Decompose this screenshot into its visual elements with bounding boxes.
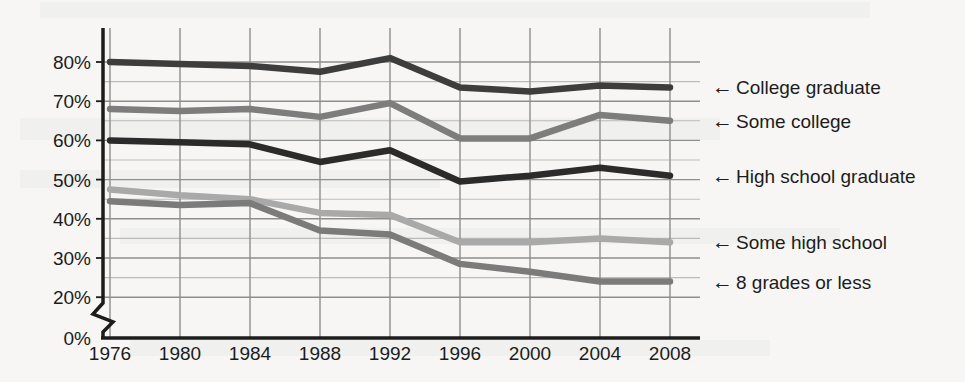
y-tick-label-30: 30% <box>53 248 91 269</box>
y-tick-label-20: 20% <box>53 287 91 308</box>
horizontal-gridlines <box>103 62 700 297</box>
vertical-gridlines <box>110 28 670 338</box>
legend-arrow-icon: ← <box>712 164 733 187</box>
legend-arrow-icon: ← <box>712 230 733 253</box>
legend-arrow-icon: ← <box>712 109 733 132</box>
x-tick-label-2000: 2000 <box>509 343 551 364</box>
line-chart: 0%20%30%40%50%60%70%80% 1976198019841988… <box>0 0 965 382</box>
legend-arrow-icon: ← <box>712 270 733 293</box>
x-tick-label-1976: 1976 <box>89 343 131 364</box>
legend-arrow-icon: ← <box>712 75 733 98</box>
y-tick-label-70: 70% <box>53 91 91 112</box>
x-axis-tick-labels: 197619801984198819921996200020042008 <box>89 343 691 364</box>
y-axis-tick-labels: 0%20%30%40%50%60%70%80% <box>53 52 91 349</box>
x-tick-label-2004: 2004 <box>579 343 622 364</box>
legend-group: ←College graduate←Some college←High scho… <box>712 75 916 292</box>
chart-page: 0%20%30%40%50%60%70%80% 1976198019841988… <box>0 0 965 382</box>
legend-label-some-college: Some college <box>736 111 851 132</box>
x-tick-label-1988: 1988 <box>299 343 341 364</box>
legend-label-high-school-graduate: High school graduate <box>736 166 916 187</box>
legend-label-college-graduate: College graduate <box>736 77 881 98</box>
x-tick-label-1996: 1996 <box>439 343 481 364</box>
legend-label-some-high-school: Some high school <box>736 232 887 253</box>
y-tick-label-80: 80% <box>53 52 91 73</box>
y-tick-label-50: 50% <box>53 170 91 191</box>
legend-label-8-grades-or-less: 8 grades or less <box>736 272 871 293</box>
x-tick-label-1992: 1992 <box>369 343 411 364</box>
x-tick-label-1984: 1984 <box>229 343 272 364</box>
y-tick-label-60: 60% <box>53 130 91 151</box>
y-tick-label-0: 0% <box>64 328 92 349</box>
x-tick-label-2008: 2008 <box>649 343 691 364</box>
y-tick-label-40: 40% <box>53 209 91 230</box>
x-tick-label-1980: 1980 <box>159 343 201 364</box>
